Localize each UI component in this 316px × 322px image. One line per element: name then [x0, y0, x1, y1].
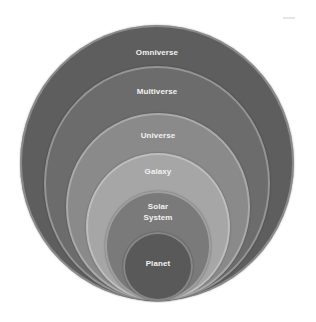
- label-omniverse: Omniverse: [20, 47, 294, 58]
- nested-circles-diagram: Omniverse Multiverse Universe Galaxy Sol…: [0, 0, 316, 322]
- ring-planet: Planet: [123, 232, 193, 301]
- label-galaxy: Galaxy: [86, 166, 230, 177]
- label-planet: Planet: [123, 258, 193, 269]
- label-multiverse: Multiverse: [44, 86, 270, 97]
- corner-mark: [283, 17, 295, 19]
- label-universe: Universe: [66, 130, 250, 141]
- label-solar-system: Solar System: [105, 201, 211, 223]
